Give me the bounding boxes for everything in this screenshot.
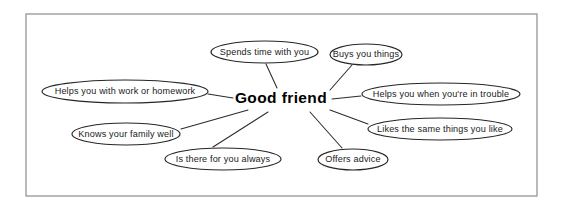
connector-to-buys-things — [330, 65, 352, 90]
mindmap-node-knows-family[interactable]: Knows your family well — [72, 123, 180, 145]
connector-to-spends-time — [266, 64, 277, 88]
node-label-helps-homework: Helps you with work or homework — [55, 86, 196, 96]
node-label-buys-things: Buys you things — [333, 49, 400, 59]
connector-to-likes-same-things — [330, 110, 368, 124]
connector-to-knows-family — [181, 110, 248, 129]
node-label-there-always: Is there for you always — [176, 154, 271, 164]
mindmap-diagram: Spends time with youBuys you thingsHelps… — [0, 0, 563, 209]
node-label-offers-advice: Offers advice — [325, 154, 380, 164]
mindmap-node-there-always[interactable]: Is there for you always — [165, 148, 281, 170]
mindmap-node-helps-trouble[interactable]: Helps you when you're in trouble — [362, 83, 520, 105]
mindmap-canvas: Spends time with youBuys you thingsHelps… — [0, 0, 563, 209]
connector-to-helps-trouble — [332, 96, 361, 99]
mindmap-node-likes-same-things[interactable]: Likes the same things you like — [368, 118, 512, 140]
mindmap-node-offers-advice[interactable]: Offers advice — [318, 149, 388, 170]
mindmap-node-helps-homework[interactable]: Helps you with work or homework — [42, 80, 208, 103]
node-label-spends-time: Spends time with you — [220, 47, 309, 57]
connector-to-offers-advice — [310, 112, 342, 148]
mindmap-node-spends-time[interactable]: Spends time with you — [211, 41, 318, 63]
center-node-label: Good friend — [235, 89, 327, 106]
node-label-knows-family: Knows your family well — [78, 129, 173, 139]
mindmap-node-buys-things[interactable]: Buys you things — [330, 44, 402, 65]
connector-to-helps-homework — [208, 94, 233, 98]
node-label-helps-trouble: Helps you when you're in trouble — [373, 89, 509, 99]
node-label-likes-same-things: Likes the same things you like — [377, 124, 503, 134]
